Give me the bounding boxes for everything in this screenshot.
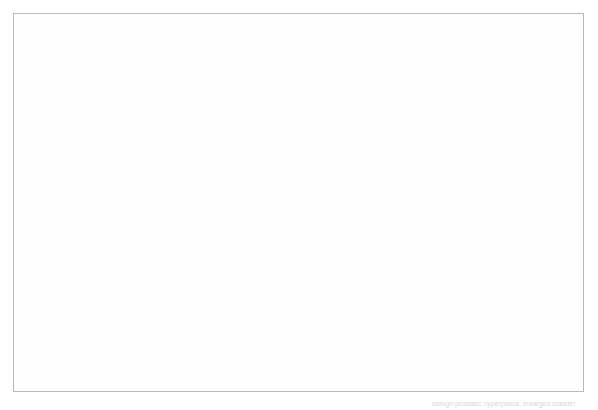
bottom-caption-text: benign prostatic hyperplasia, enlarged b… [432,402,576,407]
figure-frame-border [13,13,584,392]
figure-root: bladder normal prostate thick bladder wa… [0,0,598,410]
bottom-caption-strip: benign prostatic hyperplasia, enlarged b… [0,402,598,410]
